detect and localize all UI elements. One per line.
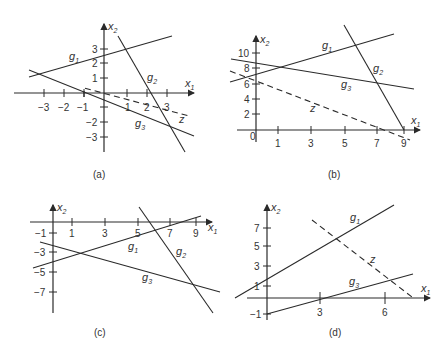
label-g3: g3 — [341, 78, 351, 92]
x-tick-label: 5 — [135, 228, 141, 239]
x-tick-label: 3 — [102, 228, 108, 239]
origin-label: 0 — [250, 131, 256, 142]
x-tick-label: 3 — [164, 102, 170, 113]
x-tick-label: 2 — [144, 102, 150, 113]
line-g1 — [230, 34, 394, 82]
line-z — [84, 88, 189, 116]
label-g1: g1 — [350, 211, 360, 225]
label-z: z — [309, 102, 316, 114]
x-tick-label: 9 — [193, 228, 199, 239]
x-tick-label: 3 — [317, 307, 323, 318]
x-tick-label: 5 — [342, 138, 348, 149]
x-tick-label: 6 — [382, 307, 388, 318]
y-tick-label: 2 — [244, 109, 250, 120]
label-g1: g1 — [322, 39, 332, 53]
label-z: z — [178, 113, 185, 125]
panel-d: 3 6 7 5 3 1 −1 x2 x1 g1 g3 z (d) — [235, 201, 431, 338]
label-g1: g1 — [69, 50, 79, 64]
line-g3 — [267, 274, 413, 314]
x-tick-label: −2 — [58, 102, 70, 113]
label-g2: g2 — [176, 245, 186, 259]
label-g2: g2 — [147, 71, 157, 85]
figure-canvas: −3 −2 −1 1 2 3 3 2 1 −2 −3 x2 x1 g1 g2 g… — [0, 0, 447, 353]
x2-axis-label: x2 — [56, 201, 67, 215]
x-tick-label: 3 — [308, 138, 314, 149]
y-tick-label: 8 — [244, 63, 250, 74]
y-tick-label: 10 — [238, 48, 250, 59]
x1-axis-label: x1 — [184, 77, 195, 91]
caption-a: (a) — [93, 169, 105, 180]
x-tick-label: −3 — [38, 102, 50, 113]
y-tick-label: −1 — [250, 309, 262, 320]
y-tick-label: −3 — [86, 132, 98, 143]
y-tick-label: 2 — [92, 58, 98, 69]
panel-b: 0 1 3 5 7 9 10 8 6 4 2 x2 x1 g1 g2 g3 z … — [230, 25, 421, 180]
x-tick-label: −1 — [35, 228, 47, 239]
y-tick-label: 3 — [92, 44, 98, 55]
line-g2 — [344, 25, 404, 130]
caption-d: (d) — [329, 327, 341, 338]
x-tick-label: 7 — [374, 138, 380, 149]
x-tick-label: 7 — [167, 228, 173, 239]
label-g2: g2 — [373, 62, 383, 76]
y-tick-label: −3 — [34, 247, 46, 258]
x2-axis-label: x2 — [259, 33, 270, 47]
y-tick-label: −2 — [86, 117, 98, 128]
caption-c: (c) — [94, 327, 106, 338]
y-tick-label: 3 — [254, 261, 260, 272]
y-tick-label: 6 — [244, 79, 250, 90]
y-tick-label: −5 — [34, 267, 46, 278]
y-tick-label: 5 — [254, 241, 260, 252]
x2-axis-label: x2 — [107, 20, 118, 34]
x-tick-label: 1 — [125, 102, 131, 113]
line-g2 — [139, 207, 213, 313]
label-g3: g3 — [349, 275, 359, 289]
x-tick-label: 9 — [401, 138, 407, 149]
panel-c: −1 1 3 5 7 9 −3 −5 −7 x2 x1 g1 g2 g3 (c) — [30, 201, 220, 338]
x1-axis-label: x1 — [207, 221, 218, 235]
caption-b: (b) — [328, 169, 340, 180]
x1-axis-label: x1 — [410, 114, 421, 128]
x-tick-label: 1 — [275, 138, 281, 149]
y-tick-label: 1 — [92, 73, 98, 84]
label-z: z — [369, 253, 376, 265]
y-tick-label: 7 — [254, 223, 260, 234]
panel-a: −3 −2 −1 1 2 3 3 2 1 −2 −3 x2 x1 g1 g2 g… — [14, 20, 195, 180]
line-g2 — [118, 36, 185, 152]
x-tick-label: −1 — [77, 102, 89, 113]
y-tick-label: 4 — [244, 94, 250, 105]
line-z — [312, 220, 412, 297]
y-tick-label: −7 — [34, 287, 46, 298]
x1-axis-label: x1 — [420, 282, 431, 296]
x-tick-label: 1 — [69, 228, 75, 239]
x2-axis-label: x2 — [270, 201, 281, 215]
label-g1: g1 — [128, 240, 138, 254]
label-g3: g3 — [135, 117, 145, 131]
